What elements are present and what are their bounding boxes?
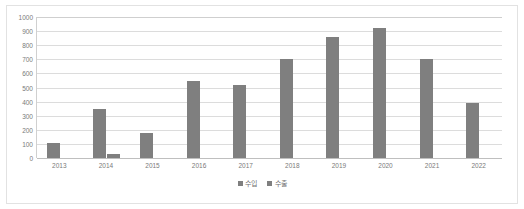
legend-label: 수입 (245, 180, 257, 187)
x-axis-tick-label: 2013 (52, 163, 66, 170)
bar-group (130, 17, 177, 158)
plot-area: 01002003004005006007008009001000 (36, 17, 502, 158)
x-axis-tick-label: 2017 (238, 163, 252, 170)
bar-group (177, 17, 224, 158)
bar-group (270, 17, 317, 158)
legend-label: 수출 (275, 180, 287, 187)
bar-수입-2017[interactable] (233, 85, 246, 158)
x-axis-tick-label: 2021 (425, 163, 439, 170)
bar-수입-2015[interactable] (140, 133, 153, 158)
y-axis-tick-label: 400 (22, 99, 33, 106)
y-axis-tick-label: 600 (22, 71, 33, 78)
y-axis-tick-label: 1000 (19, 15, 33, 22)
bar-group (317, 17, 364, 158)
bar-수입-2013[interactable] (47, 143, 60, 159)
bars-layer (37, 17, 502, 158)
bar-수입-2020[interactable] (373, 28, 386, 158)
bar-수입-2016[interactable] (187, 81, 200, 158)
bar-수입-2019[interactable] (326, 37, 339, 158)
bar-group (410, 17, 457, 158)
y-axis-tick-label: 500 (22, 85, 33, 92)
y-axis-tick-label: 700 (22, 57, 33, 64)
x-axis-tick-label: 2016 (192, 163, 206, 170)
bar-수입-2021[interactable] (420, 59, 433, 158)
y-axis-tick-label: 100 (22, 142, 33, 149)
x-axis-tick-label: 2022 (471, 163, 485, 170)
x-axis-tick-label: 2019 (332, 163, 346, 170)
legend-item-수입[interactable]: 수입 (238, 180, 258, 187)
bar-수입-2018[interactable] (280, 59, 293, 158)
x-axis-tick-label: 2015 (145, 163, 159, 170)
y-axis-tick-label: 800 (22, 43, 33, 50)
bar-수입-2022[interactable] (466, 103, 479, 158)
y-axis-tick-label: 900 (22, 29, 33, 36)
y-axis-tick-label: 200 (22, 128, 33, 135)
legend-swatch-icon (267, 181, 272, 186)
legend-swatch-icon (238, 181, 243, 186)
y-axis-tick-label: 300 (22, 113, 33, 120)
bar-수출-2014[interactable] (107, 154, 120, 158)
x-axis-tick-label: 2020 (378, 163, 392, 170)
bar-group (223, 17, 270, 158)
gridline: 0 (37, 158, 502, 159)
chart-legend: 수입수출 (0, 180, 524, 187)
bar-group (37, 17, 84, 158)
bar-수입-2014[interactable] (93, 109, 106, 158)
y-axis-tick-label: 0 (29, 156, 33, 163)
bar-group (363, 17, 410, 158)
bar-group (84, 17, 131, 158)
bar-chart-figure: 01002003004005006007008009001000 2013201… (0, 0, 524, 209)
plot-wrapper: 01002003004005006007008009001000 2013201… (36, 17, 502, 158)
x-axis-tick-label: 2018 (285, 163, 299, 170)
legend-item-수출[interactable]: 수출 (267, 180, 287, 187)
bar-group (456, 17, 503, 158)
x-axis-tick-label: 2014 (99, 163, 113, 170)
